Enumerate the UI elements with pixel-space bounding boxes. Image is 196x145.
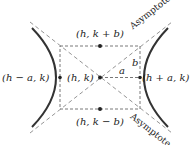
- label-left-vertex: (h − a, k): [2, 73, 49, 83]
- label-a: a: [119, 66, 125, 76]
- left-vertex-point: [58, 76, 62, 80]
- top-point: [98, 44, 102, 48]
- hyperbola-diagram: (h, k + b) (h, k − b) (h − a, k) (h, k) …: [0, 0, 196, 145]
- label-right-vertex: (h + a, k): [142, 73, 189, 83]
- label-bottom-vertex: (h, k − b): [76, 117, 124, 127]
- label-b: b: [132, 58, 138, 68]
- center-point: [98, 76, 102, 80]
- label-center: (h, k): [67, 73, 94, 83]
- bottom-point: [98, 107, 102, 111]
- label-top-vertex: (h, k + b): [76, 29, 124, 39]
